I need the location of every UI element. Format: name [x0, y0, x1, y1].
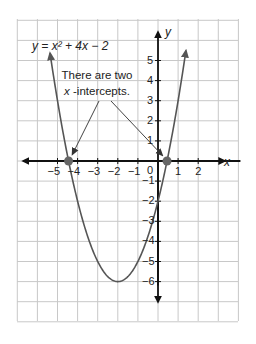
- annotation-line-1: There are two: [58, 67, 136, 83]
- y-tick-label: −1: [142, 175, 155, 186]
- annotation-line-2: x -intercepts.: [58, 83, 136, 99]
- y-tick-label: 3: [147, 95, 153, 106]
- intercept-annotation: There are two x -intercepts.: [58, 67, 136, 99]
- x-axis-label: x: [224, 156, 230, 168]
- x-tick-label: −1: [128, 166, 141, 177]
- y-tick-label: 2: [147, 115, 153, 126]
- equation-label: y = x² + 4x − 2: [32, 40, 108, 52]
- y-tick-label: −2: [142, 195, 155, 206]
- origin-label: 0: [147, 165, 153, 176]
- y-tick-label: 1: [147, 135, 153, 146]
- y-axis-label: y: [165, 26, 171, 38]
- annotation-text: -intercepts.: [70, 85, 130, 97]
- x-tick-label: −2: [108, 166, 121, 177]
- x-tick-label: 2: [195, 166, 201, 177]
- y-tick-label: −5: [142, 256, 155, 267]
- y-tick-label: 5: [147, 55, 153, 66]
- x-tick-label: −5: [48, 166, 61, 177]
- y-tick-label: 4: [147, 75, 153, 86]
- x-tick-label: 1: [175, 166, 181, 177]
- y-tick-label: −3: [142, 215, 155, 226]
- y-tick-label: −4: [142, 235, 155, 246]
- x-tick-label: −4: [68, 166, 81, 177]
- x-tick-label: −3: [88, 166, 101, 177]
- y-tick-label: −6: [142, 276, 155, 287]
